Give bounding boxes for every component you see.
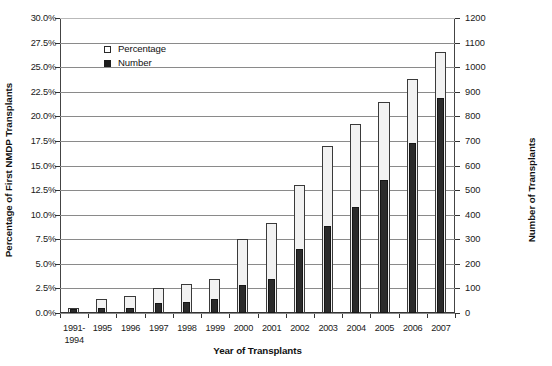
bar-number bbox=[155, 303, 162, 313]
y-axis-left-tick-mark bbox=[55, 190, 60, 191]
y-axis-left-ticks: 0.0%2.5%5.0%7.5%10.0%12.5%15.0%17.5%20.0… bbox=[0, 18, 56, 313]
bar-category-group bbox=[258, 18, 286, 313]
y-axis-left-tick-mark bbox=[55, 215, 60, 216]
bar-number bbox=[352, 207, 359, 313]
x-axis-tick-mark bbox=[314, 314, 315, 318]
y-axis-right-tick-mark bbox=[455, 92, 460, 93]
bar-category-group bbox=[427, 18, 455, 313]
bar-number bbox=[98, 308, 105, 313]
y-axis-right-tick-mark bbox=[455, 116, 460, 117]
y-axis-right-ticks: 0100200300400500600700800900100011001200 bbox=[455, 18, 515, 313]
y-axis-left-tick-label: 20.0% bbox=[31, 111, 56, 121]
x-axis-tick-mark bbox=[173, 314, 174, 318]
bar-number bbox=[183, 302, 190, 313]
legend-item-percentage: Percentage bbox=[104, 42, 166, 56]
bar-category-group bbox=[342, 18, 370, 313]
y-axis-left-tick-mark bbox=[55, 18, 60, 19]
y-axis-left-tick-label: 2.5% bbox=[36, 283, 56, 293]
y-axis-left-tick-label: 25.0% bbox=[31, 62, 56, 72]
bar-number bbox=[296, 249, 303, 313]
y-axis-left-tick-label: 5.0% bbox=[36, 259, 56, 269]
y-axis-right-tick-label: 1100 bbox=[465, 38, 485, 48]
bar-category-group bbox=[399, 18, 427, 313]
y-axis-right-tick-label: 300 bbox=[465, 234, 481, 244]
x-axis-tick-mark bbox=[60, 314, 61, 318]
bar-number bbox=[437, 98, 444, 313]
x-axis-tick-mark bbox=[88, 314, 89, 318]
y-axis-left-tick-label: 0.0% bbox=[36, 308, 56, 318]
y-axis-right-tick-mark bbox=[455, 43, 460, 44]
y-axis-left-tick-label: 15.0% bbox=[31, 161, 56, 171]
y-axis-left-tick-label: 22.5% bbox=[31, 87, 56, 97]
bar-category-group bbox=[286, 18, 314, 313]
y-axis-left-tick-label: 12.5% bbox=[31, 185, 56, 195]
x-axis-tick-mark bbox=[342, 314, 343, 318]
y-axis-left-tick-mark bbox=[55, 239, 60, 240]
y-axis-right-tick-mark bbox=[455, 239, 460, 240]
y-axis-right-tick-label: 600 bbox=[465, 161, 481, 171]
y-axis-right-tick-mark bbox=[455, 190, 460, 191]
x-axis-tick-mark bbox=[229, 314, 230, 318]
bar-number bbox=[324, 226, 331, 313]
bar-category-group bbox=[314, 18, 342, 313]
legend-label-percentage: Percentage bbox=[118, 42, 166, 56]
x-axis-tick-mark bbox=[427, 314, 428, 318]
chart-legend: Percentage Number bbox=[104, 42, 166, 70]
y-axis-left-tick-mark bbox=[55, 166, 60, 167]
bar-number bbox=[268, 279, 275, 313]
y-axis-right-tick-label: 1200 bbox=[465, 13, 486, 23]
legend-item-number: Number bbox=[104, 56, 166, 70]
y-axis-left-tick-mark bbox=[55, 92, 60, 93]
x-axis-tick-mark bbox=[455, 314, 456, 318]
y-axis-right-tick-mark bbox=[455, 288, 460, 289]
y-axis-right-tick-label: 400 bbox=[465, 210, 481, 220]
y-axis-right-tick-label: 700 bbox=[465, 136, 481, 146]
y-axis-right-tick-label: 500 bbox=[465, 185, 481, 195]
y-axis-right-tick-label: 800 bbox=[465, 111, 481, 121]
bar-number bbox=[126, 308, 133, 313]
y-axis-left-tick-mark bbox=[55, 67, 60, 68]
y-axis-right-tick-mark bbox=[455, 264, 460, 265]
bar-category-group bbox=[370, 18, 398, 313]
y-axis-left-tick-label: 10.0% bbox=[31, 210, 56, 220]
x-axis-tick-mark bbox=[201, 314, 202, 318]
y-axis-right-tick-mark bbox=[455, 166, 460, 167]
y-axis-right-tick-mark bbox=[455, 141, 460, 142]
bar-number bbox=[70, 309, 77, 313]
y-axis-left-tick-label: 30.0% bbox=[31, 13, 56, 23]
y-axis-right-tick-label: 0 bbox=[465, 308, 470, 318]
bar-number bbox=[409, 143, 416, 313]
x-axis-tick-mark bbox=[399, 314, 400, 318]
x-axis-tick-mark bbox=[370, 314, 371, 318]
y-axis-left-tick-mark bbox=[55, 43, 60, 44]
y-axis-right-tick-label: 900 bbox=[465, 87, 481, 97]
y-axis-left-tick-mark bbox=[55, 141, 60, 142]
y-axis-right-tick-mark bbox=[455, 67, 460, 68]
bar-category-group bbox=[229, 18, 257, 313]
y-axis-right-tick-label: 1000 bbox=[465, 62, 486, 72]
y-axis-right-title: Number of Transplants bbox=[522, 95, 540, 285]
bar-number bbox=[239, 285, 246, 313]
black-square-icon bbox=[104, 60, 111, 67]
x-axis-tick-mark bbox=[258, 314, 259, 318]
y-axis-left-tick-mark bbox=[55, 116, 60, 117]
y-axis-right-tick-mark bbox=[455, 18, 460, 19]
legend-label-number: Number bbox=[118, 56, 152, 70]
bar-category-group bbox=[60, 18, 88, 313]
y-axis-right-tick-mark bbox=[455, 215, 460, 216]
bar-category-group bbox=[201, 18, 229, 313]
x-axis-tick-mark bbox=[286, 314, 287, 318]
x-axis-tick-mark bbox=[116, 314, 117, 318]
y-axis-left-tick-label: 17.5% bbox=[31, 136, 56, 146]
y-axis-left-tick-mark bbox=[55, 288, 60, 289]
y-axis-left-tick-label: 7.5% bbox=[36, 234, 56, 244]
chart-figure: Percentage of First NMDP Transplants Num… bbox=[0, 0, 552, 366]
x-axis-title: Year of Transplants bbox=[60, 345, 455, 356]
bar-category-group bbox=[173, 18, 201, 313]
bar-number bbox=[211, 299, 218, 313]
white-square-icon bbox=[104, 46, 111, 53]
y-axis-left-tick-mark bbox=[55, 264, 60, 265]
y-axis-right-tick-label: 200 bbox=[465, 259, 481, 269]
y-axis-right-tick-label: 100 bbox=[465, 283, 481, 293]
x-axis-tick-mark bbox=[145, 314, 146, 318]
